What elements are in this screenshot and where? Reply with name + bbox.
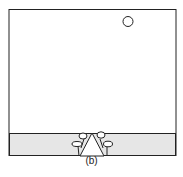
figure-caption: (b) [0,155,183,166]
diagram-canvas [0,0,183,177]
